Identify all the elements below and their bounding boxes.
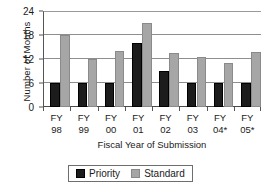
x-label-FY99: FY99 [70, 112, 97, 136]
legend-label-priority: Priority [89, 168, 120, 179]
x-label-line1: FY [207, 112, 234, 124]
x-tick-mark-8 [260, 107, 261, 111]
x-label-FY01: FY01 [125, 112, 152, 136]
x-label-FY02: FY02 [152, 112, 179, 136]
x-label-line2: 01 [125, 124, 152, 136]
bar-group [236, 12, 263, 107]
x-label-line2: 99 [70, 124, 97, 136]
bar-standard-FY03 [197, 57, 207, 107]
chart-legend: PriorityStandard [68, 165, 193, 182]
x-tick-mark-5 [179, 107, 180, 111]
y-tick-label-18: 18 [23, 30, 34, 41]
x-label-FY04: FY04* [207, 112, 234, 136]
x-tick-mark-1 [70, 107, 71, 111]
legend-entry-standard: Standard [131, 168, 185, 179]
bar-group [127, 12, 154, 107]
x-tick-mark-4 [152, 107, 153, 111]
plot-area [43, 11, 261, 107]
x-label-line2: 05* [234, 124, 261, 136]
x-label-FY00: FY00 [98, 112, 125, 136]
x-label-line1: FY [179, 112, 206, 124]
x-label-FY98: FY98 [43, 112, 70, 136]
bar-priority-FY99 [78, 83, 88, 107]
bar-standard-FY01 [142, 23, 152, 107]
legend-label-standard: Standard [144, 168, 185, 179]
x-tick-mark-6 [207, 107, 208, 111]
bars-layer [45, 12, 261, 107]
bar-standard-FY04 [224, 63, 234, 107]
y-tick-label-0: 0 [28, 102, 34, 113]
legend-entry-priority: Priority [76, 168, 120, 179]
x-label-line2: 00 [98, 124, 125, 136]
x-label-line1: FY [43, 112, 70, 124]
bar-chart: Number of Months 06121824 FY98FY99FY00FY… [0, 0, 277, 191]
x-tick-mark-0 [43, 107, 44, 111]
legend-swatch-standard-icon [131, 169, 140, 178]
legend-swatch-priority-icon [76, 169, 85, 178]
x-label-line2: 03 [179, 124, 206, 136]
x-axis-tick-labels: FY98FY99FY00FY01FY02FY03FY04*FY05* [43, 112, 261, 138]
x-label-line1: FY [234, 112, 261, 124]
bar-standard-FY98 [60, 35, 70, 107]
x-label-line1: FY [98, 112, 125, 124]
y-axis-tick-labels: 06121824 [0, 0, 43, 108]
x-label-line1: FY [70, 112, 97, 124]
x-label-line1: FY [152, 112, 179, 124]
x-label-line2: 02 [152, 124, 179, 136]
x-tick-mark-3 [125, 107, 126, 111]
bar-standard-FY99 [88, 59, 98, 107]
x-label-line2: 98 [43, 124, 70, 136]
x-label-FY03: FY03 [179, 112, 206, 136]
bar-group [100, 12, 127, 107]
y-tick-label-6: 6 [28, 78, 34, 89]
x-label-line1: FY [125, 112, 152, 124]
x-tick-mark-7 [234, 107, 235, 111]
bar-group [45, 12, 72, 107]
x-axis-title: Fiscal Year of Submission [43, 139, 261, 150]
bar-priority-FY05 [241, 83, 251, 107]
bar-priority-FY00 [105, 83, 115, 107]
bar-group [181, 12, 208, 107]
bar-group [154, 12, 181, 107]
x-label-FY05: FY05* [234, 112, 261, 136]
x-label-line2: 04* [207, 124, 234, 136]
bar-standard-FY00 [115, 51, 125, 107]
y-tick-label-24: 24 [23, 6, 34, 17]
bar-priority-FY04 [214, 83, 224, 107]
bar-standard-FY05 [251, 52, 261, 107]
x-tick-mark-2 [98, 107, 99, 111]
bar-standard-FY02 [169, 53, 179, 107]
bar-group [209, 12, 236, 107]
bar-priority-FY01 [132, 43, 142, 107]
bar-priority-FY03 [187, 83, 197, 107]
bar-group [72, 12, 99, 107]
bar-priority-FY98 [50, 83, 60, 107]
bar-priority-FY02 [159, 71, 169, 107]
y-tick-label-12: 12 [23, 54, 34, 65]
